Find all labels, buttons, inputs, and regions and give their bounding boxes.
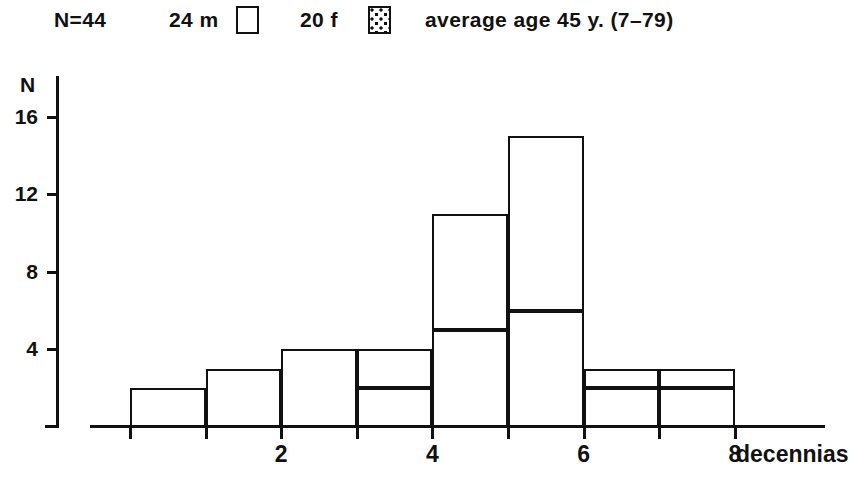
- bar-segment-female: [659, 369, 735, 388]
- bar-column: [281, 349, 357, 427]
- bar-segment-male: [432, 330, 508, 427]
- bar-column: [508, 136, 584, 427]
- x-axis-tick: [507, 428, 510, 439]
- y-axis-tick: [47, 348, 57, 351]
- x-axis-tick: [356, 428, 359, 439]
- bar-segment-male: [659, 388, 735, 427]
- y-axis-tick-label: 12: [15, 183, 38, 204]
- y-axis-tick: [47, 271, 57, 274]
- bar-column: [584, 369, 660, 427]
- x-axis-tick: [280, 428, 283, 439]
- x-axis-tick: [129, 428, 132, 439]
- bar-segment-female: [584, 369, 660, 388]
- bar-segment-male: [357, 388, 433, 427]
- bar-segment-male: [584, 388, 660, 427]
- x-axis-tick-label: 2: [275, 443, 288, 466]
- bar-column: [130, 388, 206, 427]
- x-axis-tick-label: 4: [426, 443, 439, 466]
- bar-segment-male: [281, 349, 357, 427]
- y-axis-line: [56, 76, 59, 428]
- bar-column: [357, 349, 433, 427]
- bar-segment-male: [508, 311, 584, 427]
- y-axis-tick: [47, 116, 57, 119]
- x-axis-tick: [431, 428, 434, 439]
- bar-segment-female: [508, 136, 584, 311]
- bar-column: [432, 214, 508, 427]
- y-axis-tick: [47, 193, 57, 196]
- y-axis-tick-label: 8: [26, 261, 38, 282]
- bar-segment-male: [206, 369, 282, 427]
- bar-column: [206, 369, 282, 427]
- y-axis-foot: [45, 425, 57, 428]
- x-axis-tick: [658, 428, 661, 439]
- x-axis-title: decennias: [736, 443, 849, 466]
- bar-segment-female: [432, 214, 508, 330]
- y-axis-tick-label: 16: [15, 106, 38, 127]
- x-axis-tick: [583, 428, 586, 439]
- bar-column: [659, 369, 735, 427]
- bar-segment-female: [357, 349, 433, 388]
- bar-segment-female: [130, 388, 206, 427]
- x-axis-tick: [205, 428, 208, 439]
- y-axis-title: N: [20, 74, 35, 95]
- x-axis-tick-label: 6: [577, 443, 590, 466]
- x-axis-tick: [734, 428, 737, 439]
- y-axis-tick-label: 4: [26, 338, 38, 359]
